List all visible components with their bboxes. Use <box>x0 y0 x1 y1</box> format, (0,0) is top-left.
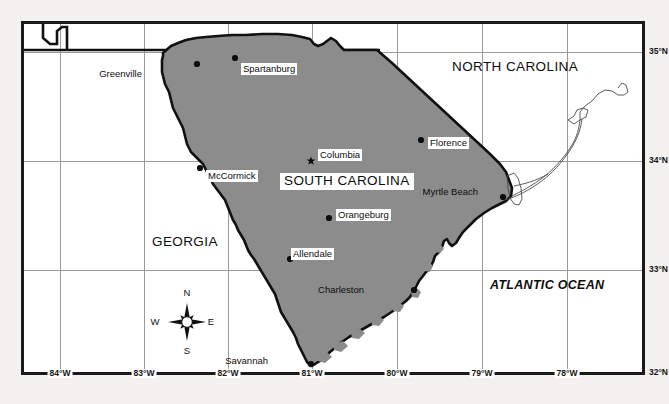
lat-label-32: 32°N <box>649 368 668 377</box>
compass-label-west: W <box>151 317 160 327</box>
lon-label--78: 78°W <box>555 369 580 378</box>
city-label-columbia: Columbia <box>318 149 362 161</box>
lon-label--80: 80°W <box>385 369 410 378</box>
city-marker-florence[interactable] <box>418 137 424 143</box>
region-label-south-carolina: SOUTH CAROLINA <box>280 173 414 190</box>
city-marker-greenville[interactable] <box>194 61 200 67</box>
city-marker-savannah[interactable] <box>308 361 314 367</box>
region-label-georgia: GEORGIA <box>152 235 218 249</box>
lat-label-35: 35°N <box>649 47 668 56</box>
city-label-spartanburg: Spartanburg <box>241 63 297 75</box>
city-marker-charleston[interactable] <box>411 287 417 293</box>
compass-label-south: S <box>184 346 190 356</box>
city-label-allendale: Allendale <box>291 248 334 260</box>
city-marker-orangeburg[interactable] <box>326 215 332 221</box>
city-marker-mccormick[interactable] <box>197 165 203 171</box>
city-marker-spartanburg[interactable] <box>232 55 238 61</box>
city-marker-myrtle-beach[interactable] <box>500 194 506 200</box>
city-label-mccormick: McCormick <box>206 170 258 182</box>
city-label-charleston: Charleston <box>318 285 364 295</box>
compass-label-east: E <box>208 317 214 327</box>
region-label-atlantic-ocean: ATLANTIC OCEAN <box>490 279 604 292</box>
region-label-north-carolina: NORTH CAROLINA <box>452 60 578 74</box>
lon-label--81: 81°W <box>300 369 325 378</box>
city-label-orangeburg: Orangeburg <box>336 209 391 221</box>
city-label-savannah: Savannah <box>225 356 268 366</box>
compass-label-north: N <box>184 288 191 298</box>
lon-label--79: 79°W <box>470 369 495 378</box>
compass-center <box>182 317 192 327</box>
lon-label--82: 82°W <box>216 369 241 378</box>
lat-label-34: 34°N <box>649 156 668 165</box>
lat-label-33: 33°N <box>649 265 668 274</box>
city-label-greenville: Greenville <box>97 68 144 80</box>
lon-label--84: 84°W <box>48 369 73 378</box>
lon-label--83: 83°W <box>132 369 157 378</box>
map-container[interactable]: NORTH CAROLINAGEORGIASOUTH CAROLINAATLAN… <box>0 0 669 404</box>
city-label-myrtle-beach: Myrtle Beach <box>423 187 478 197</box>
city-label-florence: Florence <box>428 137 469 149</box>
